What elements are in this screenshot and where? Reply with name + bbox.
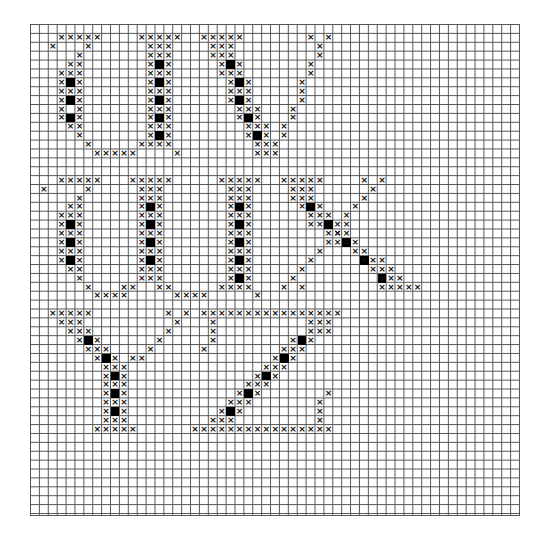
- cross-stitch-icon: ×: [298, 283, 307, 292]
- cross-stitch-icon: ×: [324, 211, 333, 220]
- cross-stitch-icon: ×: [235, 69, 244, 78]
- cross-stitch-icon: ×: [262, 381, 271, 390]
- cross-stitch-icon: ×: [298, 203, 307, 212]
- cross-stitch-icon: ×: [333, 309, 342, 318]
- cross-stitch-icon: ×: [102, 345, 111, 354]
- cross-stitch-icon: ×: [93, 425, 102, 434]
- cross-stitch-icon: ×: [137, 33, 146, 42]
- cross-stitch-icon: ×: [84, 309, 93, 318]
- cross-stitch-icon: ×: [120, 292, 129, 301]
- cross-stitch-icon: ×: [66, 69, 75, 78]
- cross-stitch-icon: ×: [360, 256, 369, 265]
- cross-stitch-icon: ×: [369, 185, 378, 194]
- cross-stitch-icon: ×: [137, 140, 146, 149]
- cross-stitch-icon: ×: [217, 283, 226, 292]
- cross-stitch-icon: ×: [66, 33, 75, 42]
- cross-stitch-icon: ×: [128, 176, 137, 185]
- cross-stitch-icon: ×: [102, 149, 111, 158]
- cross-stitch-icon: ×: [226, 283, 235, 292]
- cross-stitch-icon: ×: [333, 229, 342, 238]
- cross-stitch-icon: ×: [306, 33, 315, 42]
- cross-stitch-icon: ×: [200, 345, 209, 354]
- cross-stitch-icon: ×: [333, 238, 342, 247]
- cross-stitch-icon: ×: [235, 425, 244, 434]
- cross-stitch-icon: ×: [395, 283, 404, 292]
- cross-stitch-icon: ×: [146, 345, 155, 354]
- cross-stitch-icon: ×: [342, 220, 351, 229]
- cross-stitch-icon: ×: [226, 309, 235, 318]
- cross-stitch-icon: ×: [102, 292, 111, 301]
- cross-stitch-icon: ×: [253, 389, 262, 398]
- cross-stitch-icon: ×: [128, 149, 137, 158]
- cross-stitch-icon: ×: [200, 425, 209, 434]
- cross-stitch-icon: ×: [84, 42, 93, 51]
- cross-stitch-icon: ×: [262, 363, 271, 372]
- cross-stitch-icon: ×: [128, 354, 137, 363]
- cross-stitch-icon: ×: [360, 176, 369, 185]
- cross-stitch-icon: ×: [66, 211, 75, 220]
- cross-stitch-icon: ×: [84, 185, 93, 194]
- cross-stitch-icon: ×: [75, 33, 84, 42]
- cross-stitch-icon: ×: [253, 176, 262, 185]
- cross-stitch-icon: ×: [315, 416, 324, 425]
- cross-stitch-icon: ×: [342, 238, 351, 247]
- cross-stitch-icon: ×: [262, 425, 271, 434]
- cross-stitch-icon: ×: [413, 283, 422, 292]
- cross-stitch-icon: ×: [280, 425, 289, 434]
- cross-stitch-icon: ×: [173, 318, 182, 327]
- cross-stitch-icon: ×: [298, 265, 307, 274]
- cross-stitch-icon: ×: [253, 149, 262, 158]
- cross-stitch-icon: ×: [262, 149, 271, 158]
- cross-stitch-icon: ×: [120, 283, 129, 292]
- cross-stitch-icon: ×: [315, 247, 324, 256]
- cross-stitch-icon: ×: [280, 363, 289, 372]
- cross-stitch-icon: ×: [315, 327, 324, 336]
- cross-stitch-icon: ×: [289, 425, 298, 434]
- cross-stitch-icon: ×: [155, 283, 164, 292]
- cross-stitch-icon: ×: [155, 122, 164, 131]
- cross-stitch-icon: ×: [244, 309, 253, 318]
- cross-stitch-icon: ×: [289, 114, 298, 123]
- cross-stitch-icon: ×: [324, 327, 333, 336]
- cross-stitch-icon: ×: [173, 33, 182, 42]
- cross-stitch-icon: ×: [66, 122, 75, 131]
- cross-stitch-icon: ×: [84, 327, 93, 336]
- cross-stitch-icon: ×: [378, 283, 387, 292]
- cross-stitch-icon: ×: [93, 292, 102, 301]
- cross-stitch-icon: ×: [253, 425, 262, 434]
- cross-stitch-icon: ×: [298, 96, 307, 105]
- cross-stitch-icon: ×: [164, 283, 173, 292]
- cross-stitch-icon: ×: [280, 345, 289, 354]
- cross-stitch-icon: ×: [84, 345, 93, 354]
- cross-stitch-icon: ×: [66, 247, 75, 256]
- cross-stitch-icon: ×: [57, 114, 66, 123]
- cross-stitch-icon: ×: [155, 105, 164, 114]
- cross-stitch-icon: ×: [155, 87, 164, 96]
- cross-stitch-icon: ×: [182, 292, 191, 301]
- cross-stitch-icon: ×: [120, 149, 129, 158]
- cross-stitch-icon: ×: [235, 87, 244, 96]
- cross-stitch-icon: ×: [280, 131, 289, 140]
- cross-stitch-icon: ×: [235, 407, 244, 416]
- cross-stitch-icon: ×: [111, 149, 120, 158]
- cross-stitch-icon: ×: [209, 425, 218, 434]
- cross-stitch-icon: ×: [244, 381, 253, 390]
- cross-stitch-icon: ×: [298, 425, 307, 434]
- cross-stitch-icon: ×: [378, 176, 387, 185]
- cross-stitch-icon: ×: [253, 292, 262, 301]
- cross-stitch-icon: ×: [57, 256, 66, 265]
- cross-stitch-icon: ×: [57, 33, 66, 42]
- cross-stitch-icon: ×: [235, 229, 244, 238]
- cross-stitch-icon: ×: [75, 131, 84, 140]
- cross-stitch-icon: ×: [289, 309, 298, 318]
- cross-stitch-icon: ×: [280, 309, 289, 318]
- cross-stitch-icon: ×: [164, 140, 173, 149]
- cross-stitch-icon: ×: [155, 140, 164, 149]
- cross-stitch-icon: ×: [111, 363, 120, 372]
- cross-stitch-icon: ×: [306, 194, 315, 203]
- cross-stitch-icon: ×: [191, 292, 200, 301]
- cross-stitch-icon: ×: [235, 265, 244, 274]
- cross-stitch-icon: ×: [226, 425, 235, 434]
- cross-stitch-icon: ×: [57, 176, 66, 185]
- cross-stitch-icon: ×: [146, 140, 155, 149]
